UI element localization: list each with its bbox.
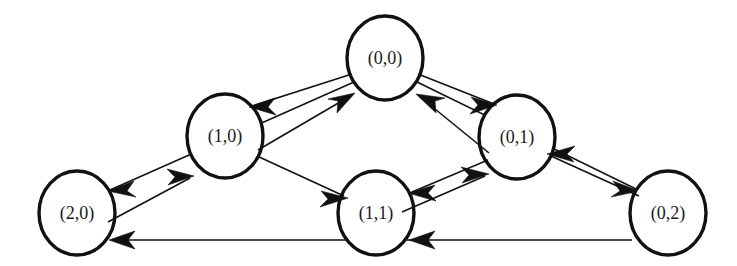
- node-1-1[interactable]: (1,1): [338, 171, 414, 255]
- edge-02-to-11: [409, 231, 632, 249]
- node-2-0-label: (2,0): [60, 203, 95, 224]
- node-0-1-label: (0,1): [500, 127, 535, 148]
- edge-20-to-10: [108, 169, 194, 222]
- state-transition-diagram: (0,0) (1,0) (0,1) (2,0) (1,1) (0,2): [0, 0, 737, 266]
- edge-00-to-01: [418, 74, 497, 114]
- node-0-0[interactable]: (0,0): [347, 16, 423, 100]
- edge-10-to-11: [257, 156, 348, 207]
- nodes-layer: (0,0) (1,0) (0,1) (2,0) (1,1) (0,2): [39, 16, 706, 255]
- node-0-2[interactable]: (0,2): [630, 171, 706, 255]
- edge-01-to-00-arrowhead: [416, 94, 445, 113]
- node-1-1-label: (1,1): [359, 203, 394, 224]
- edge-10-to-00-arrowhead: [328, 93, 355, 113]
- edge-02-to-01-line: [551, 156, 639, 196]
- edge-10-to-11-line: [257, 156, 344, 196]
- edge-00-to-10: [249, 74, 352, 115]
- node-0-1[interactable]: (0,1): [479, 95, 555, 179]
- diagram-canvas: (0,0) (1,0) (0,1) (2,0) (1,1) (0,2): [0, 0, 737, 266]
- node-2-0[interactable]: (2,0): [39, 171, 115, 255]
- node-0-0-label: (0,0): [368, 48, 403, 69]
- node-0-2-label: (0,2): [651, 203, 686, 224]
- node-1-0-label: (1,0): [208, 126, 243, 147]
